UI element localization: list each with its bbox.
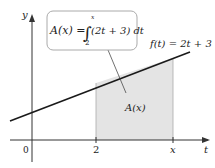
function-label: f(t) = 2t + 3 xyxy=(149,38,212,49)
formula-lhs: A(x) = xyxy=(49,24,85,37)
integral-area-diagram: A(x) = ∫ x 2 (2t + 3) dt f(t) = 2t + 3 A… xyxy=(0,0,215,168)
integral-lower-limit: 2 xyxy=(85,39,89,47)
integrand: (2t + 3) dt xyxy=(91,25,145,36)
t-axis-label: t xyxy=(204,144,209,155)
area-label: A(x) xyxy=(124,102,146,113)
y-axis-label: y xyxy=(21,9,28,20)
tick-label-x: x xyxy=(170,144,176,155)
t-axis-arrow-icon xyxy=(202,137,210,143)
tick-label-2: 2 xyxy=(93,144,99,155)
y-axis-arrow-icon xyxy=(29,14,35,22)
origin-label: 0 xyxy=(23,145,29,155)
shaded-area-region xyxy=(96,58,173,140)
